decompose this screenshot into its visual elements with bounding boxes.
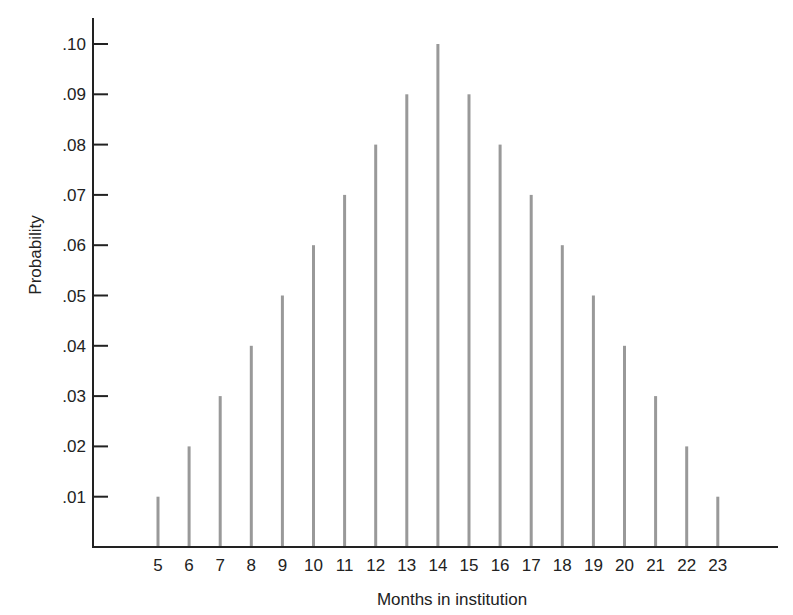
bar-19 <box>592 296 595 548</box>
x-tick-label: 20 <box>615 556 634 575</box>
x-tick-label: 12 <box>366 556 385 575</box>
bar-22 <box>685 446 688 547</box>
x-tick-label: 19 <box>584 556 603 575</box>
y-tick-label: .07 <box>62 186 86 205</box>
y-ticks: .01.02.03.04.05.06.07.08.09.10 <box>62 35 108 507</box>
x-tick-label: 11 <box>336 556 354 575</box>
x-tick-label: 21 <box>646 556 665 575</box>
x-tick-label: 10 <box>304 556 323 575</box>
y-axis: .01.02.03.04.05.06.07.08.09.10 <box>62 18 108 548</box>
x-tick-label: 15 <box>460 556 479 575</box>
bar-21 <box>654 396 657 547</box>
y-tick-label: .05 <box>62 287 86 306</box>
bar-23 <box>716 497 719 547</box>
bar-5 <box>157 497 160 547</box>
y-tick-label: .04 <box>62 337 86 356</box>
x-tick-label: 14 <box>428 556 447 575</box>
bar-13 <box>405 94 408 547</box>
bar-14 <box>436 44 439 547</box>
x-axis-title: Months in institution <box>377 590 527 609</box>
bar-20 <box>623 346 626 547</box>
bar-series <box>157 44 720 547</box>
x-tick-label: 22 <box>677 556 696 575</box>
x-tick-label: 7 <box>215 556 224 575</box>
y-tick-label: .09 <box>62 85 86 104</box>
bar-11 <box>343 195 346 547</box>
bar-16 <box>499 145 502 547</box>
x-tick-label: 18 <box>553 556 572 575</box>
x-tick-label: 8 <box>247 556 256 575</box>
x-tick-label: 5 <box>153 556 162 575</box>
bar-17 <box>530 195 533 547</box>
x-axis: 567891011121314151617181920212223 <box>93 547 778 575</box>
x-tick-label: 16 <box>491 556 510 575</box>
x-tick-label: 23 <box>708 556 727 575</box>
y-tick-label: .02 <box>62 437 86 456</box>
y-tick-label: .03 <box>62 387 86 406</box>
x-tick-label: 9 <box>278 556 287 575</box>
bar-10 <box>312 245 315 547</box>
y-axis-title: Probability <box>26 215 45 295</box>
x-tick-label: 13 <box>397 556 416 575</box>
probability-chart: .01.02.03.04.05.06.07.08.09.10 567891011… <box>0 0 793 615</box>
x-tick-label: 6 <box>184 556 193 575</box>
bar-15 <box>468 94 471 547</box>
bar-18 <box>561 245 564 547</box>
x-tick-label: 17 <box>522 556 541 575</box>
y-tick-label: .08 <box>62 136 86 155</box>
bar-6 <box>188 446 191 547</box>
x-tick-labels: 567891011121314151617181920212223 <box>153 556 727 575</box>
bar-8 <box>250 346 253 547</box>
bar-7 <box>219 396 222 547</box>
bar-12 <box>374 145 377 547</box>
bar-9 <box>281 296 284 548</box>
y-tick-label: .06 <box>62 236 86 255</box>
y-tick-label: .10 <box>62 35 86 54</box>
y-tick-label: .01 <box>62 488 86 507</box>
